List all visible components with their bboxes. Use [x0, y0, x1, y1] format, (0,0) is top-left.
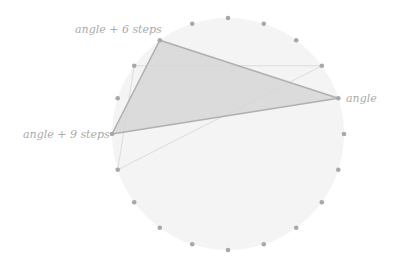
dot: [294, 38, 299, 43]
circle-triangle-diagram: angle angle + 6 steps angle + 9 steps: [0, 0, 400, 271]
dot: [132, 200, 137, 205]
dot: [336, 96, 341, 101]
dot: [226, 16, 231, 21]
label-angle: angle: [346, 92, 377, 105]
dot: [158, 38, 163, 43]
label-angle-plus-6: angle + 6 steps: [75, 23, 162, 36]
dot: [262, 21, 267, 26]
dot: [342, 132, 347, 137]
dot: [294, 226, 299, 231]
dot: [336, 168, 341, 173]
dot: [320, 200, 325, 205]
dot: [226, 248, 231, 253]
dot: [190, 21, 195, 26]
label-angle-plus-9: angle + 9 steps: [23, 128, 110, 141]
dot: [110, 132, 115, 137]
background-disc: [112, 18, 344, 250]
dot: [115, 96, 120, 101]
dot: [132, 64, 137, 69]
dot: [115, 168, 120, 173]
dot: [262, 242, 267, 247]
dot: [320, 64, 325, 69]
dot: [190, 242, 195, 247]
dot: [158, 226, 163, 231]
